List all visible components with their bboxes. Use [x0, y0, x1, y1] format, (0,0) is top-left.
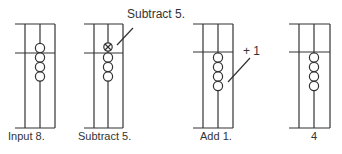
add-callout-arrow	[228, 58, 250, 82]
bead	[213, 53, 222, 62]
bead	[35, 53, 44, 62]
bead	[213, 81, 222, 90]
step-label-input: Input 8.	[8, 130, 45, 142]
abacus-frame-subtract-5	[84, 24, 133, 128]
bead	[309, 81, 318, 90]
bead	[103, 62, 112, 71]
step-label-add: Add 1.	[200, 130, 232, 142]
bead	[213, 72, 222, 81]
bead	[309, 72, 318, 81]
bead	[103, 53, 112, 62]
subtract-callout-label: Subtract 5.	[127, 7, 185, 21]
bead	[35, 72, 44, 81]
abacus-frame-add-1	[193, 24, 250, 128]
bead	[309, 53, 318, 62]
bead	[35, 43, 44, 52]
abacus-frame-input-8	[15, 24, 55, 128]
bead	[103, 72, 112, 81]
step-label-result: 4	[311, 130, 317, 142]
abacus-diagram	[0, 0, 342, 154]
step-label-subtract: Subtract 5.	[78, 130, 131, 142]
bead	[35, 62, 44, 71]
subtract-callout-arrow	[117, 28, 133, 45]
bead	[309, 62, 318, 71]
bead	[213, 62, 222, 71]
abacus-frame-result-4	[289, 24, 330, 128]
add-callout-label: + 1	[243, 44, 260, 58]
